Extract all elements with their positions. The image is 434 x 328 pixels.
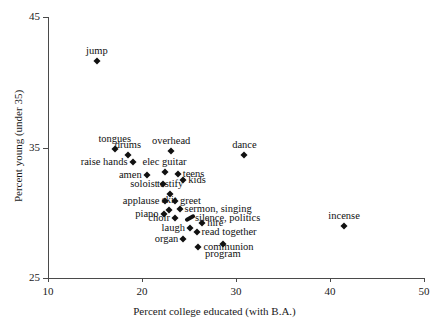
y-tick — [43, 148, 48, 149]
point-label: elec guitar — [143, 157, 187, 168]
point-label: dance — [232, 140, 256, 151]
point-label: jump — [86, 46, 108, 57]
x-tick-label: 30 — [216, 285, 256, 297]
data-point[interactable] — [174, 170, 181, 177]
data-point[interactable] — [168, 148, 175, 155]
x-tick — [48, 278, 49, 282]
data-point[interactable] — [195, 243, 202, 250]
x-tick — [424, 278, 425, 282]
point-label: overhead — [152, 136, 190, 147]
point-label: applause — [123, 196, 160, 207]
point-label: testify — [157, 179, 183, 190]
data-point[interactable] — [193, 229, 200, 236]
point-label: soloist — [130, 179, 157, 190]
y-tick-label: 35 — [16, 141, 40, 153]
data-point[interactable] — [176, 205, 183, 212]
point-label: read together — [202, 227, 257, 238]
data-point[interactable] — [129, 158, 136, 165]
point-label: program — [205, 249, 241, 260]
x-axis-label: Percent college educated (with B.A.) — [0, 305, 429, 317]
point-label: drums — [115, 140, 141, 151]
data-point[interactable] — [186, 225, 193, 232]
point-label: skit — [162, 195, 177, 206]
point-label: raise hands — [81, 157, 128, 168]
data-point[interactable] — [161, 169, 168, 176]
data-point[interactable] — [180, 235, 187, 242]
x-tick-label: 10 — [28, 285, 68, 297]
y-axis-line — [48, 17, 49, 278]
x-tick — [236, 278, 237, 282]
y-tick — [43, 17, 48, 18]
data-point[interactable] — [171, 214, 178, 221]
point-label: incense — [328, 211, 360, 222]
y-tick — [43, 278, 48, 279]
x-tick — [142, 278, 143, 282]
x-tick — [330, 278, 331, 282]
y-tick-label: 25 — [16, 271, 40, 283]
point-label: organ — [155, 234, 179, 245]
data-point[interactable] — [341, 222, 348, 229]
data-point[interactable] — [93, 58, 100, 65]
x-tick-label: 50 — [404, 285, 434, 297]
x-tick-label: 40 — [310, 285, 350, 297]
y-tick-label: 45 — [16, 10, 40, 22]
data-point[interactable] — [241, 152, 248, 159]
x-tick-label: 20 — [122, 285, 162, 297]
point-label: kids — [188, 175, 206, 186]
